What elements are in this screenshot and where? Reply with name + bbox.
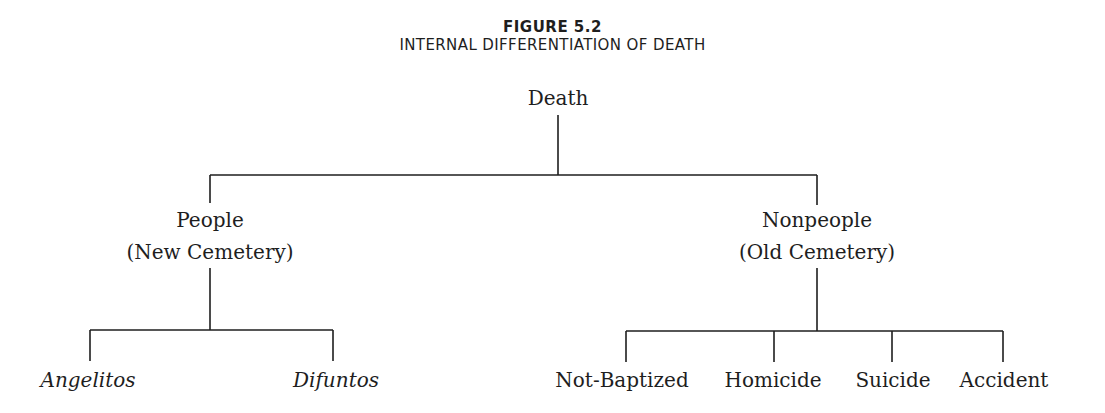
leaf-difuntos: Difuntos	[293, 364, 379, 396]
leaf-suicide: Suicide	[855, 364, 930, 396]
root-node-death: Death	[528, 82, 589, 114]
leaf-not-baptized: Not-Baptized	[555, 364, 688, 396]
branch-people-label: People	[176, 204, 243, 236]
tree-connectors	[0, 0, 1105, 413]
leaf-accident: Accident	[960, 364, 1049, 396]
leaf-homicide: Homicide	[724, 364, 821, 396]
branch-nonpeople-sublabel: (Old Cemetery)	[739, 236, 895, 268]
branch-people-sublabel: (New Cemetery)	[126, 236, 293, 268]
leaf-angelitos: Angelitos	[40, 364, 135, 396]
branch-nonpeople-label: Nonpeople	[762, 204, 872, 236]
